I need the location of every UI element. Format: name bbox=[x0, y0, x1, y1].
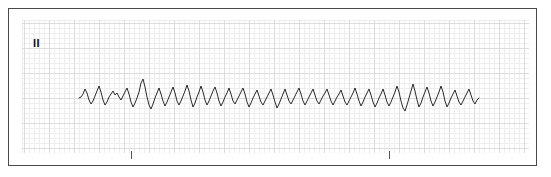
interval-tick-2 bbox=[389, 151, 390, 159]
ecg-paper bbox=[22, 20, 529, 153]
ecg-grid-background bbox=[22, 20, 529, 153]
interval-tick-1 bbox=[131, 151, 132, 159]
lead-label-ii: II bbox=[33, 38, 40, 49]
ecg-strip-card: II bbox=[8, 8, 537, 166]
